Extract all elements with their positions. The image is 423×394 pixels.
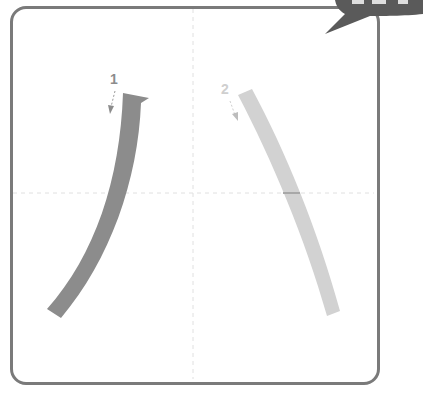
speech-bubble-icon [325, 0, 423, 34]
stroke-1-arrow-line [111, 91, 115, 107]
stroke-2-path [238, 89, 340, 316]
stroke-1-path [47, 93, 149, 318]
stroke-1-arrow-icon [108, 105, 114, 114]
speech-badge[interactable] [325, 0, 423, 34]
stroke-order-diagram: 1 2 [0, 0, 423, 394]
badge-text-fragment [398, 0, 408, 4]
badge-text-fragment [352, 0, 364, 4]
stroke-2-arrow-icon [232, 112, 238, 121]
badge-text-fragment [372, 0, 386, 4]
stroke-2-number: 2 [221, 81, 229, 97]
stroke-1-number: 1 [110, 71, 118, 87]
stroke-2-arrow-line [230, 101, 235, 115]
